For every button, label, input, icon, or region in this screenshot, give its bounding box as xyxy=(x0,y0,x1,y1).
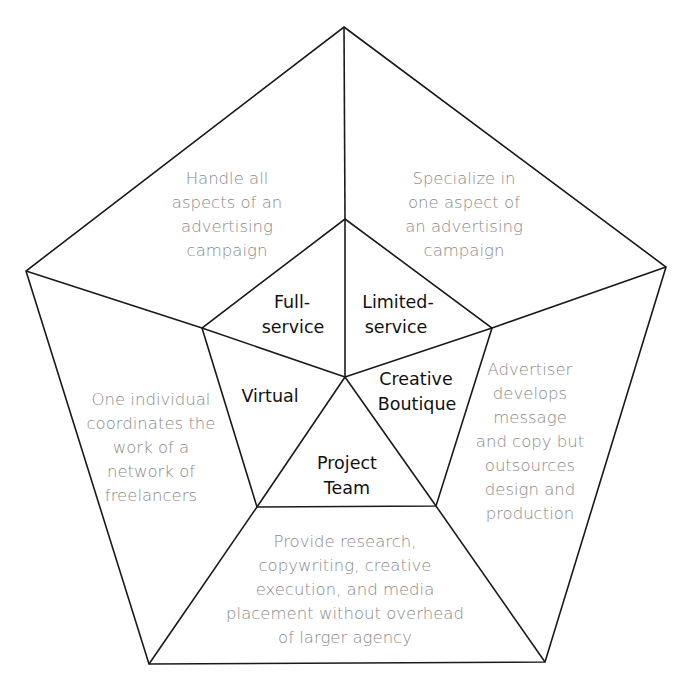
svg-text:placement without overhead: placement without overhead xyxy=(226,604,464,623)
svg-text:an advertising: an advertising xyxy=(405,217,523,236)
segment-label-full-service: Full- service xyxy=(262,292,325,337)
svg-text:advertising: advertising xyxy=(181,217,273,236)
svg-text:Limited-: Limited- xyxy=(362,292,434,312)
svg-text:outsources: outsources xyxy=(485,456,575,475)
connector-right xyxy=(492,267,666,328)
svg-text:work of a: work of a xyxy=(113,438,189,457)
svg-text:message: message xyxy=(493,408,567,427)
connector-left xyxy=(26,271,202,328)
svg-text:freelancers: freelancers xyxy=(105,486,197,505)
segment-label-project-team: Project Team xyxy=(317,453,377,498)
svg-text:One individual: One individual xyxy=(92,390,211,409)
segment-label-limited-service: Limited- service xyxy=(362,292,434,337)
svg-text:Specialize in: Specialize in xyxy=(412,169,515,188)
segment-label-creative-boutique: Creative Boutique xyxy=(378,369,457,414)
svg-text:Boutique: Boutique xyxy=(378,394,457,414)
svg-text:one aspect of: one aspect of xyxy=(408,193,520,212)
segment-description-limited-service: Specialize in one aspect of an advertisi… xyxy=(405,169,523,260)
agency-types-pentagon-diagram: Full- service Limited- service Creative … xyxy=(0,0,683,695)
svg-text:Creative: Creative xyxy=(379,369,452,389)
svg-text:Advertiser: Advertiser xyxy=(488,360,573,379)
svg-text:design and: design and xyxy=(485,480,575,499)
connector-top xyxy=(344,27,345,219)
svg-text:and copy but: and copy but xyxy=(476,432,584,451)
svg-text:coordinates the: coordinates the xyxy=(87,414,216,433)
svg-text:service: service xyxy=(262,317,325,337)
svg-text:aspects of an: aspects of an xyxy=(172,193,282,212)
svg-text:network of: network of xyxy=(107,462,195,481)
svg-text:of larger agency: of larger agency xyxy=(278,628,412,647)
svg-text:campaign: campaign xyxy=(424,241,505,260)
svg-text:campaign: campaign xyxy=(187,241,268,260)
svg-text:execution, and media: execution, and media xyxy=(256,580,435,599)
segment-description-virtual: One individual coordinates the work of a… xyxy=(87,390,216,505)
svg-text:service: service xyxy=(365,317,428,337)
svg-text:production: production xyxy=(486,504,575,523)
svg-text:Project: Project xyxy=(317,453,377,473)
svg-text:Full-: Full- xyxy=(274,292,310,312)
svg-text:develops: develops xyxy=(493,384,567,403)
svg-text:Virtual: Virtual xyxy=(241,386,298,406)
svg-text:Handle all: Handle all xyxy=(186,169,269,188)
svg-text:copywriting, creative: copywriting, creative xyxy=(259,556,432,575)
connector-bottom-right xyxy=(436,506,545,662)
connector-bottom-left xyxy=(149,507,257,664)
segment-label-virtual: Virtual xyxy=(241,386,298,406)
svg-text:Provide research,: Provide research, xyxy=(273,532,416,551)
segment-description-project-team: Provide research, copywriting, creative … xyxy=(226,532,464,647)
segment-description-creative-boutique: Advertiser develops message and copy but… xyxy=(476,360,584,523)
segment-description-full-service: Handle all aspects of an advertising cam… xyxy=(172,169,282,260)
svg-text:Team: Team xyxy=(323,478,370,498)
